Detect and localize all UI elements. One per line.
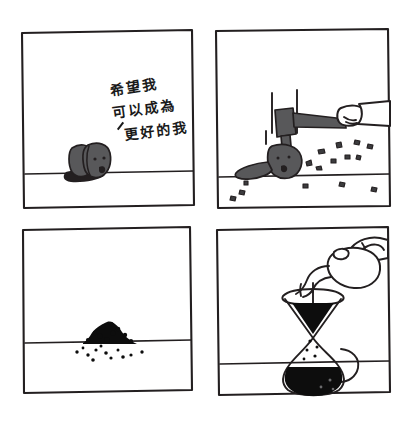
crushed-bean-body — [268, 144, 302, 178]
bean-eye-left — [93, 157, 96, 160]
crushed-bean-eye-right — [288, 156, 291, 159]
bean-eye-right — [102, 156, 105, 159]
panel-1-frame — [22, 30, 194, 208]
comic-artwork — [0, 0, 412, 425]
comic-strip: 希望我 可以成為 更好的我 — [0, 0, 412, 425]
panel-3 — [23, 227, 192, 393]
panel-1 — [22, 30, 194, 208]
crushed-bean-eye-left — [277, 157, 280, 160]
coffee-bean-character — [69, 143, 111, 177]
panel-4 — [217, 227, 390, 396]
panel-3-frame — [23, 227, 192, 393]
sleeve — [358, 101, 390, 126]
bean-sad-mouth — [99, 166, 105, 173]
kettle-lid — [334, 249, 349, 259]
panel-2 — [216, 29, 390, 208]
